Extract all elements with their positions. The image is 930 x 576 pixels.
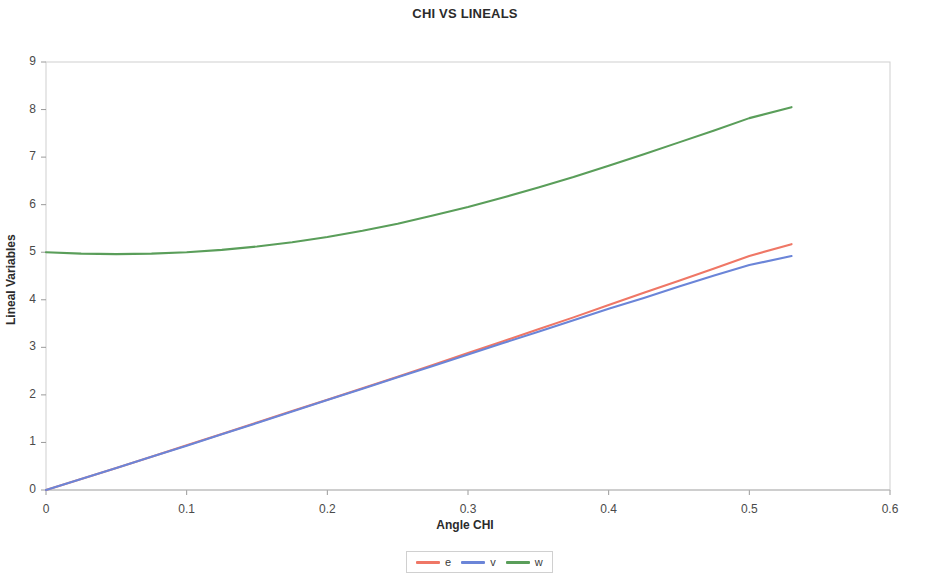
chart-legend: evw: [406, 551, 553, 573]
plot-area: [0, 0, 930, 576]
legend-label: w: [535, 556, 543, 568]
legend-entry[interactable]: w: [506, 556, 543, 568]
legend-swatch-icon: [506, 561, 530, 564]
chart-container: CHI VS LINEALS Lineal Variables Angle CH…: [0, 0, 930, 576]
legend-entry[interactable]: e: [416, 556, 451, 568]
legend-label: v: [490, 556, 496, 568]
legend-label: e: [445, 556, 451, 568]
plot-frame: [46, 62, 890, 490]
series-line-w: [46, 107, 792, 254]
legend-swatch-icon: [416, 561, 440, 564]
legend-entry[interactable]: v: [461, 556, 496, 568]
legend-swatch-icon: [461, 561, 485, 564]
series-line-e: [46, 244, 792, 490]
series-line-v: [46, 256, 792, 490]
